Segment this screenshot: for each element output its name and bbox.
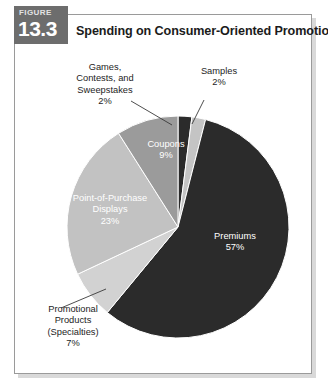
figure-tab-number: 13.3 [18,16,57,41]
slice-label-point-of-purchase-displays: Point-of-Purchase Displays 23% [55,193,165,227]
figure-number-tab: FIGURE 13.3 [14,6,68,44]
slice-label-promotional-products: Promotional Products (Specialties) 7% [21,304,125,350]
slice-label-games: Games, Contests, and Sweepstakes 2% [57,62,153,108]
slice-label-coupons: Coupons 9% [131,139,201,162]
page-title: Spending on Consumer-Oriented Promotions [76,24,306,38]
slice-label-premiums: Premiums 57% [198,231,272,254]
slice-label-samples: Samples 2% [183,66,255,89]
figure-screenshot: FIGURE 13.3 Spending on Consumer-Oriente… [0,0,328,392]
